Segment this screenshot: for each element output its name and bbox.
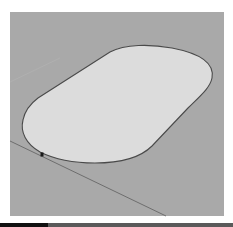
rounded-rectangle-face[interactable] (22, 45, 212, 163)
viewport-scene[interactable] (0, 0, 233, 227)
status-bar-left-segment (0, 223, 48, 227)
inference-point-marker (41, 153, 44, 157)
faint-axis-line (10, 58, 60, 82)
